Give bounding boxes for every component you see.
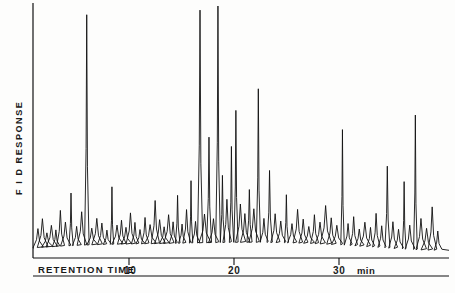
- chromatogram-trace: [33, 6, 449, 250]
- x-axis-label: RETENTION TIME: [38, 264, 135, 275]
- y-axis-label: F I D RESPONSE: [14, 101, 24, 195]
- x-axis-unit: min: [357, 265, 375, 276]
- chromatogram-figure: F I D RESPONSE RETENTION TIME 10 20 30 m…: [0, 0, 455, 293]
- chromatogram-plot: F I D RESPONSE RETENTION TIME 10 20 30 m…: [0, 0, 455, 293]
- x-tick-label-10: 10: [124, 265, 136, 276]
- x-tick-label-30: 30: [333, 265, 345, 276]
- x-tick-label-20: 20: [228, 265, 240, 276]
